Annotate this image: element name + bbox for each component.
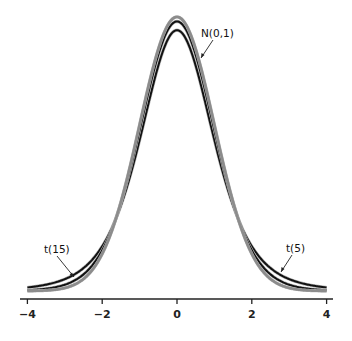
curve-n-0-1	[27, 17, 326, 291]
x-tick-label: 0	[173, 308, 181, 321]
curve-t-15	[27, 21, 326, 290]
annotation-normal: N(0,1)	[201, 27, 234, 58]
curve-halo	[27, 17, 326, 291]
density-chart: −4−2024 N(0,1) t(15) t(5)	[0, 0, 352, 341]
x-tick-label: 4	[323, 308, 331, 321]
annotation-t5-label: t(5)	[286, 242, 305, 254]
x-tick-label: −4	[19, 308, 36, 321]
curve-t-5	[27, 30, 326, 287]
x-tick-label: −2	[94, 308, 111, 321]
curve-halo	[27, 21, 326, 290]
x-axis-ticks: −4−2024	[19, 299, 331, 321]
x-tick-label: 2	[248, 308, 256, 321]
annotation-t15-label: t(15)	[44, 243, 70, 255]
annotation-normal-label: N(0,1)	[201, 27, 234, 39]
curve-halo	[27, 30, 326, 287]
annotation-t15: t(15)	[44, 243, 74, 277]
annotation-t5: t(5)	[281, 242, 305, 272]
density-curves	[27, 17, 326, 291]
